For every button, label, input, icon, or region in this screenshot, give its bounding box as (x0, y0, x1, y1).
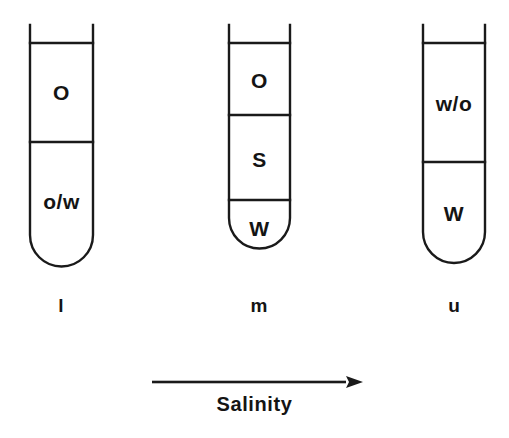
tube-lower-phase-1: O (30, 82, 93, 103)
tube-caption-l: l (21, 296, 101, 315)
tube-lower-outline (30, 25, 93, 267)
tube-middle-outline (229, 25, 290, 248)
tube-middle-phase-3: W (229, 218, 290, 239)
tube-upper-outline (423, 25, 485, 263)
tube-upper-phase-1: w/o (423, 93, 485, 114)
tube-middle (229, 25, 290, 248)
tube-upper (423, 25, 485, 263)
tube-caption-u: u (414, 296, 494, 315)
salinity-arrow (152, 376, 363, 388)
salinity-arrow-shaft (152, 381, 346, 384)
tube-lower-phase-2: o/w (30, 191, 93, 212)
salinity-arrow-head (346, 376, 363, 388)
phase-behaviour-figure: Oo/wOSWw/oW lmu Salinity (0, 0, 509, 438)
tube-lower (30, 25, 93, 267)
tube-middle-phase-2: S (229, 149, 290, 170)
tube-caption-m: m (219, 296, 299, 315)
salinity-axis-label: Salinity (0, 392, 509, 416)
tube-upper-phase-2: W (423, 203, 485, 224)
tube-middle-phase-1: O (229, 70, 290, 91)
